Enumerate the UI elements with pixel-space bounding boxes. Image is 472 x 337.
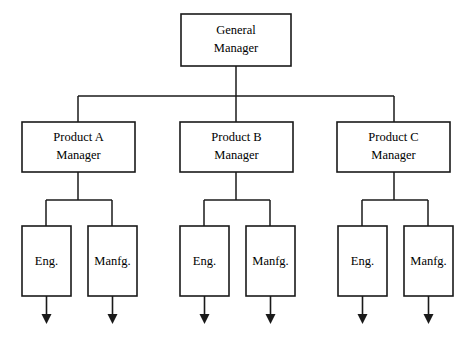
root-to-divisions-connector (78, 66, 394, 122)
product-b-eng-label: Eng. (193, 254, 216, 268)
org-chart-canvas: General Manager Product A Manager Produc… (0, 0, 472, 337)
node-product-c-manfg[interactable]: Manfg. (404, 226, 453, 296)
general-manager-label-line2: Manager (214, 41, 259, 55)
product-c-manfg-arrow-head (424, 314, 434, 324)
product-c-manager-label-line2: Manager (371, 148, 416, 162)
node-product-a-manager[interactable]: Product A Manager (22, 122, 135, 172)
product-c-eng-label: Eng. (351, 254, 374, 268)
node-product-b-manfg[interactable]: Manfg. (246, 226, 295, 296)
node-product-c-manager[interactable]: Product C Manager (337, 122, 450, 172)
outgoing-arrow-product-c-eng (358, 296, 368, 324)
product-a-manager-label-line2: Manager (56, 148, 101, 162)
product-a-eng-arrow-head (42, 314, 52, 324)
division-b-to-units-connector (204, 172, 270, 226)
outgoing-arrow-product-a-manfg (108, 296, 118, 324)
outgoing-arrow-product-c-manfg (424, 296, 434, 324)
product-a-manfg-arrow-head (108, 314, 118, 324)
product-c-eng-arrow-head (358, 314, 368, 324)
product-a-manfg-label: Manfg. (94, 254, 130, 268)
product-b-manager-label-line1: Product B (211, 130, 261, 144)
node-general-manager[interactable]: General Manager (181, 14, 291, 66)
product-c-manfg-label: Manfg. (410, 254, 446, 268)
product-b-manfg-arrow-head (266, 314, 276, 324)
node-product-a-eng[interactable]: Eng. (22, 226, 71, 296)
org-chart-diagram: General Manager Product A Manager Produc… (0, 0, 472, 337)
node-product-c-eng[interactable]: Eng. (338, 226, 387, 296)
outgoing-arrow-product-b-manfg (266, 296, 276, 324)
node-product-b-eng[interactable]: Eng. (180, 226, 229, 296)
division-c-to-units-connector (362, 172, 428, 226)
product-b-manager-label-line2: Manager (214, 148, 259, 162)
outgoing-arrow-product-b-eng (200, 296, 210, 324)
division-a-to-units-connector (46, 172, 112, 226)
product-a-manager-label-line1: Product A (53, 130, 103, 144)
product-c-manager-label-line1: Product C (368, 130, 418, 144)
general-manager-label-line1: General (216, 23, 256, 37)
product-b-manfg-label: Manfg. (252, 254, 288, 268)
node-product-b-manager[interactable]: Product B Manager (180, 122, 293, 172)
product-a-eng-label: Eng. (35, 254, 58, 268)
outgoing-arrow-product-a-eng (42, 296, 52, 324)
product-b-eng-arrow-head (200, 314, 210, 324)
node-product-a-manfg[interactable]: Manfg. (88, 226, 137, 296)
